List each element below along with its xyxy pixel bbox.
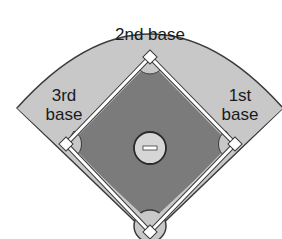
label-first-base-1: 1st: [229, 86, 252, 105]
label-second-base: 2nd base: [115, 25, 185, 44]
baseball-field-diagram: 2nd base 3rd base 1st base: [0, 0, 282, 239]
label-third-base-1: 3rd: [52, 86, 77, 105]
pitcher-rubber: [143, 146, 157, 150]
label-third-base-2: base: [46, 105, 83, 124]
label-first-base-2: base: [222, 105, 259, 124]
